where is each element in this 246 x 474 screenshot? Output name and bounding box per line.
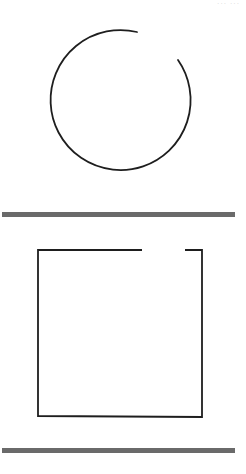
figures-canvas [0,0,246,474]
divider-bar-top [2,212,235,217]
divider-bar-bottom [2,448,235,453]
incomplete-circle [51,30,191,170]
incomplete-square [38,250,202,417]
